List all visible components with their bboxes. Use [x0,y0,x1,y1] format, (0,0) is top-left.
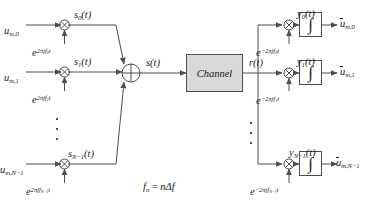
tx-output-label-1: s1(t) [74,57,91,68]
multiply-icon [284,159,294,169]
sum-output-label: s(t) [146,58,160,69]
vertical-ellipsis-icon [55,118,59,140]
subcarrier-frequency-caption: fn = nΔf [143,182,175,193]
tx-input-label-n: um,N−1 [0,165,24,176]
channel-output-label: r(t) [249,58,263,69]
rx-mix-output-label-1: y1(t) [297,57,315,68]
wire-layer [0,0,379,210]
ofdm-block-diagram: Channel ∫ ∫ ∫ um,0 um,1 um,N−1 e2πjf0t e… [0,0,379,210]
tx-input-label-1: um,1 [4,73,19,84]
rx-carrier-label-n: e−2πjfN−1t [250,187,278,198]
tx-carrier-label-n: e2πjfN−1t [26,187,50,198]
channel-block: Channel [186,54,243,92]
rx-output-label-1: um,1 [340,67,355,78]
vertical-ellipsis-icon [249,122,253,144]
rx-mix-output-label-0: y0(t) [297,9,315,20]
tx-input-label-0: um,0 [4,26,19,37]
wire-txN-diag [116,82,124,164]
channel-label: Channel [197,68,233,79]
wire-tx0-diag [116,25,124,64]
rx-carrier-label-1: e−2πjf1t [256,96,279,107]
rx-output-label-0: um,0 [340,19,355,30]
rx-mix-output-label-n: yN−1(t) [289,148,316,159]
rx-carrier-label-0: e−2πjf0t [256,48,279,59]
tx-carrier-label-1: e2πjf1t [32,95,51,106]
tx-output-label-n: sN−1(t) [68,149,94,160]
multiply-icon [284,20,294,30]
rx-output-label-n: um,N−1 [336,158,360,169]
tx-carrier-label-0: e2πjf0t [32,48,51,59]
multiply-icon [284,68,294,78]
tx-output-label-0: s0(t) [74,10,91,21]
